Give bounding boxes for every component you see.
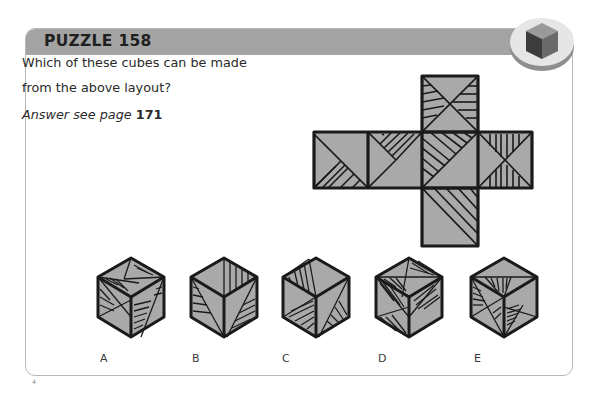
cube-option-a-icon[interactable] bbox=[94, 255, 168, 341]
option-label-e[interactable]: E bbox=[474, 352, 481, 365]
cube-option-b-icon[interactable] bbox=[187, 255, 261, 341]
cube-option-e-icon[interactable] bbox=[467, 255, 541, 341]
question-text: Which of these cubes can be made from th… bbox=[22, 50, 262, 100]
option-label-b[interactable]: B bbox=[192, 352, 200, 365]
option-label-d[interactable]: D bbox=[378, 352, 386, 365]
answer-lead: Answer see page bbox=[22, 107, 132, 122]
cube-badge-icon bbox=[505, 14, 579, 72]
answer-page: 171 bbox=[136, 107, 163, 122]
page-mark: 4 bbox=[32, 378, 36, 385]
puzzle-title: PUZZLE 158 bbox=[44, 32, 152, 50]
cube-option-d-icon[interactable] bbox=[372, 255, 446, 341]
cube-option-c-icon[interactable] bbox=[279, 255, 353, 341]
cube-net-diagram bbox=[310, 72, 540, 252]
option-label-c[interactable]: C bbox=[282, 352, 290, 365]
answer-reference: Answer see page 171 bbox=[22, 107, 162, 122]
option-label-a[interactable]: A bbox=[100, 352, 108, 365]
